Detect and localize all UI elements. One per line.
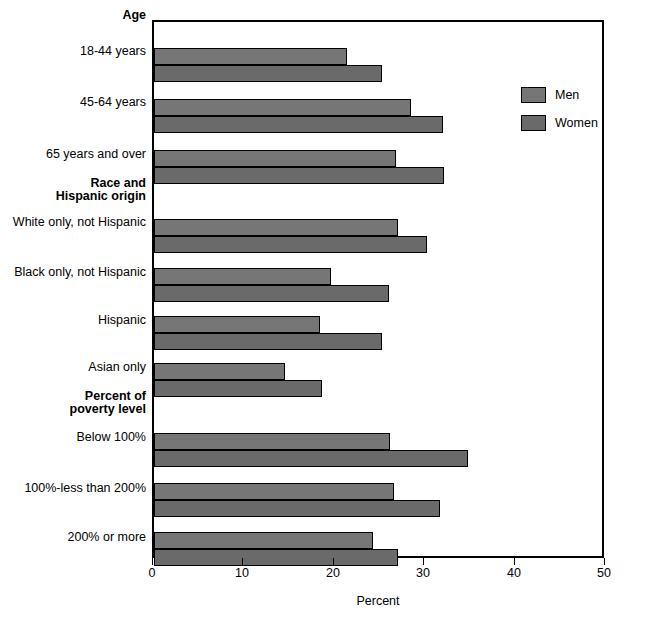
bar-men-7	[154, 433, 390, 450]
y-label-200-more: 200% or more	[0, 530, 146, 544]
y-label-45-64: 45-64 years	[0, 95, 146, 109]
y-label-65-over: 65 years and over	[0, 147, 146, 161]
group-header-poverty-line2: poverty level	[0, 403, 146, 417]
bar-women-5	[154, 333, 382, 350]
bar-men-8	[154, 483, 394, 500]
y-label-18-44: 18-44 years	[0, 44, 146, 58]
bar-men-1	[154, 99, 411, 116]
group-header-age: Age	[0, 8, 146, 22]
bar-women-2	[154, 167, 444, 184]
legend-label-women: Women	[555, 114, 598, 132]
bar-men-6	[154, 363, 285, 380]
bar-men-9	[154, 532, 373, 549]
x-tick-label-50: 50	[584, 566, 624, 580]
x-tick-label-40: 40	[494, 566, 534, 580]
x-tick-10	[242, 558, 243, 565]
legend-swatch-men-icon	[521, 87, 546, 103]
x-tick-label-10: 10	[222, 566, 262, 580]
legend-item-women: Women	[521, 112, 641, 140]
legend: Men Women	[521, 84, 641, 140]
y-label-asian: Asian only	[0, 360, 146, 374]
bar-men-0	[154, 48, 347, 65]
x-tick-label-20: 20	[313, 566, 353, 580]
bar-men-5	[154, 316, 320, 333]
bar-men-4	[154, 268, 331, 285]
bar-women-8	[154, 500, 440, 517]
x-tick-label-0: 0	[132, 566, 172, 580]
chart-figure: Age 18-44 years 45-64 years 65 years and…	[0, 0, 658, 623]
y-label-hispanic: Hispanic	[0, 313, 146, 327]
x-tick-30	[423, 558, 424, 565]
bar-men-2	[154, 150, 396, 167]
x-tick-50	[604, 558, 605, 565]
bar-women-1	[154, 116, 443, 133]
x-tick-40	[514, 558, 515, 565]
group-header-race-line2: Hispanic origin	[0, 190, 146, 204]
bar-women-6	[154, 380, 322, 397]
y-label-black: Black only, not Hispanic	[0, 265, 146, 279]
bar-women-7	[154, 450, 468, 467]
legend-label-men: Men	[555, 86, 579, 104]
bar-women-4	[154, 285, 389, 302]
x-tick-label-30: 30	[403, 566, 443, 580]
x-tick-20	[333, 558, 334, 565]
legend-item-men: Men	[521, 84, 641, 112]
bar-women-0	[154, 65, 382, 82]
bar-women-3	[154, 236, 427, 253]
y-label-100-200: 100%-less than 200%	[0, 481, 146, 495]
x-tick-0	[152, 558, 153, 565]
legend-swatch-women-icon	[521, 115, 546, 131]
y-label-below-100: Below 100%	[0, 430, 146, 444]
x-axis-title: Percent	[152, 594, 604, 608]
x-axis-tick-labels: 0 10 20 30 40 50	[0, 566, 658, 584]
bar-men-3	[154, 219, 398, 236]
y-label-white: White only, not Hispanic	[0, 215, 146, 229]
